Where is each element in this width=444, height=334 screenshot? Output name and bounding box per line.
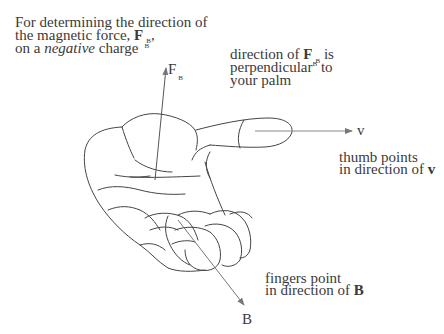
- hand-diagram: [0, 0, 444, 334]
- hand-outline: [84, 114, 292, 272]
- force-arrow: [155, 68, 166, 180]
